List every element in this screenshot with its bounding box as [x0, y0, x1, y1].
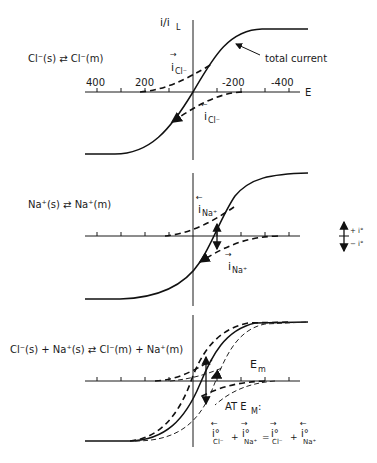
x-tick-200: 200: [135, 77, 154, 88]
eq-op1: +: [231, 432, 239, 442]
y-axis-label: i/i: [160, 16, 170, 29]
x-tick-400: 400: [86, 77, 105, 88]
eq-term2-arrow: →: [241, 419, 248, 428]
i-cl-anodic-sub: Cl⁻: [175, 67, 187, 76]
eq-term3-sub: Cl⁻: [272, 438, 283, 446]
i-cl-cathodic-sub: Cl⁻: [208, 116, 220, 125]
anodic-partial-curve: [155, 360, 212, 381]
eq-term4-sub: Na⁺: [303, 438, 317, 446]
eq-term3-arrow: →: [270, 419, 277, 428]
reaction-label-combined: Cl⁻(s) + Na⁺(s) ⇄ Cl⁻(m) + Na⁺(m): [10, 344, 183, 355]
legend-plus-label: + i°: [350, 227, 364, 235]
i-cl-cathodic-label: i: [204, 110, 207, 123]
condition-label: AT E: [225, 401, 247, 412]
figure-canvas: 400 200 -200 -400 E i/i L Cl⁻(s) ⇄ Cl⁻(m…: [0, 0, 377, 463]
condition-colon: :: [258, 401, 261, 412]
x-tick-minus-400: -400: [271, 77, 294, 88]
exchange-current-equation: ← i° Cl⁻ + → i° Na⁺ = → i° Cl⁻ + ← i° Na…: [211, 419, 317, 446]
eq-term2-sub: Na⁺: [244, 438, 258, 446]
em-pointer: [212, 374, 220, 378]
arrow-left-glyph: ←: [201, 100, 208, 109]
condition-label-sub: M: [251, 407, 258, 416]
i-na-cathodic-label: i: [228, 260, 231, 273]
arrow-right-glyph: →: [225, 250, 232, 259]
legend-exchange-current: + i° − i°: [339, 222, 364, 251]
legend-minus-label: − i°: [350, 240, 364, 248]
panel-combined: Cl⁻(s) + Na⁺(s) ⇄ Cl⁻(m) + Na⁺(m) E m AT…: [10, 315, 317, 447]
cathodic-partial-curve: [200, 381, 265, 397]
em-label-sub: m: [258, 365, 266, 374]
eq-term1-arrow: ←: [211, 419, 218, 428]
panel-chloride: 400 200 -200 -400 E i/i L Cl⁻(s) ⇄ Cl⁻(m…: [28, 16, 327, 160]
em-label: E: [250, 358, 257, 371]
eq-term1-sub: Cl⁻: [213, 438, 224, 446]
i-na-anodic-label: i: [198, 203, 201, 216]
i-na-cathodic-sub: Na⁺: [232, 266, 247, 275]
reaction-label-chloride: Cl⁻(s) ⇄ Cl⁻(m): [28, 53, 103, 64]
arrow-left-glyph: ←: [196, 193, 203, 202]
i-cl-anodic-label: i: [171, 61, 174, 74]
y-axis-label-sub: L: [176, 23, 181, 32]
panel-sodium: Na⁺(s) ⇄ Na⁺(m) ← i Na⁺ → i Na⁺: [28, 173, 308, 306]
total-current-pointer: [236, 44, 260, 55]
reaction-label-sodium: Na⁺(s) ⇄ Na⁺(m): [28, 199, 111, 210]
x-axis-label: E: [305, 87, 311, 98]
eq-equals: =: [262, 432, 270, 442]
eq-op2: +: [290, 432, 298, 442]
i-na-anodic-sub: Na⁺: [202, 209, 217, 218]
total-current-label: total current: [265, 53, 327, 64]
x-tick-minus-200: -200: [222, 77, 245, 88]
arrow-right-glyph: →: [170, 50, 177, 59]
eq-term4-arrow: ←: [300, 419, 307, 428]
